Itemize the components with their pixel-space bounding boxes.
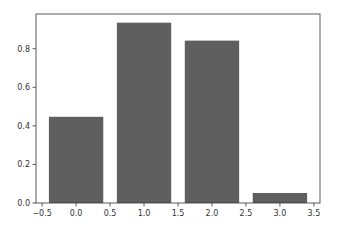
x-tick-label: −0.5 bbox=[32, 209, 51, 218]
y-tick-label: 0.0 bbox=[17, 199, 30, 208]
x-tick-label: 1.0 bbox=[138, 209, 151, 218]
x-tick-label: 1.5 bbox=[172, 209, 185, 218]
bar-3 bbox=[253, 193, 307, 203]
x-axis-ticks: −0.50.00.51.01.52.02.53.03.5 bbox=[32, 203, 320, 218]
y-tick-label: 0.8 bbox=[17, 45, 30, 54]
y-tick-label: 0.2 bbox=[17, 160, 30, 169]
bar-2 bbox=[185, 41, 239, 203]
y-axis-ticks: 0.00.20.40.60.8 bbox=[17, 45, 36, 208]
x-tick-label: 0.5 bbox=[104, 209, 117, 218]
bar-chart: −0.50.00.51.01.52.02.53.03.5 0.00.20.40.… bbox=[0, 0, 339, 229]
y-tick-label: 0.6 bbox=[17, 83, 30, 92]
bars-group bbox=[49, 23, 307, 203]
x-tick-label: 0.0 bbox=[70, 209, 83, 218]
x-tick-label: 2.5 bbox=[240, 209, 253, 218]
y-tick-label: 0.4 bbox=[17, 122, 30, 131]
x-tick-label: 3.5 bbox=[308, 209, 321, 218]
x-tick-label: 2.0 bbox=[206, 209, 219, 218]
x-tick-label: 3.0 bbox=[274, 209, 287, 218]
bar-1 bbox=[117, 23, 171, 203]
bar-0 bbox=[49, 117, 103, 203]
